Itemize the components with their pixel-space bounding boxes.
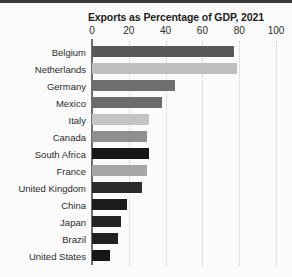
- bar-row[interactable]: [92, 247, 276, 264]
- x-tick-label-40: 40: [160, 25, 171, 36]
- bar-chart: Exports as Percentage of GDP, 2021 02040…: [0, 3, 292, 277]
- y-tick-slot: Brazil: [0, 230, 86, 247]
- y-tick-slot: South Africa: [0, 145, 86, 162]
- bar[interactable]: [92, 216, 121, 227]
- bar-row[interactable]: [92, 145, 276, 162]
- bar-row[interactable]: [92, 179, 276, 196]
- bar[interactable]: [92, 80, 175, 91]
- bar[interactable]: [92, 199, 127, 210]
- chart-title: Exports as Percentage of GDP, 2021: [66, 11, 286, 23]
- y-tick-slot: Belgium: [0, 43, 86, 60]
- y-tick-label-south-africa: South Africa: [0, 149, 86, 160]
- y-tick-slot: Netherlands: [0, 60, 86, 77]
- y-tick-slot: United States: [0, 247, 86, 264]
- bar[interactable]: [92, 165, 147, 176]
- x-tick-label-20: 20: [123, 25, 134, 36]
- y-tick-label-germany: Germany: [0, 81, 86, 92]
- y-tick-label-belgium: Belgium: [0, 47, 86, 58]
- bar-row[interactable]: [92, 128, 276, 145]
- bar[interactable]: [92, 250, 110, 261]
- bar-row[interactable]: [92, 213, 276, 230]
- bar-row[interactable]: [92, 94, 276, 111]
- y-tick-slot: France: [0, 162, 86, 179]
- y-tick-slot: United Kingdom: [0, 179, 86, 196]
- y-tick-slot: Canada: [0, 128, 86, 145]
- bar-row[interactable]: [92, 196, 276, 213]
- bar-row[interactable]: [92, 162, 276, 179]
- y-tick-label-france: France: [0, 166, 86, 177]
- gridline-100: [276, 41, 277, 265]
- y-tick-label-netherlands: Netherlands: [0, 64, 86, 75]
- y-tick-label-japan: Japan: [0, 217, 86, 228]
- y-tick-slot: China: [0, 196, 86, 213]
- x-tick-label-60: 60: [197, 25, 208, 36]
- y-tick-label-brazil: Brazil: [0, 234, 86, 245]
- y-tick-label-mexico: Mexico: [0, 98, 86, 109]
- y-tick-label-united-kingdom: United Kingdom: [0, 183, 86, 194]
- y-axis-category-labels: BelgiumNetherlandsGermanyMexicoItalyCana…: [0, 41, 86, 265]
- plot-area: [92, 41, 276, 265]
- y-tick-slot: Italy: [0, 111, 86, 128]
- y-tick-slot: Mexico: [0, 94, 86, 111]
- y-tick-slot: Japan: [0, 213, 86, 230]
- bar-row[interactable]: [92, 77, 276, 94]
- y-tick-label-united-states: United States: [0, 251, 86, 262]
- bar-row[interactable]: [92, 111, 276, 128]
- bar[interactable]: [92, 131, 147, 142]
- bar-row[interactable]: [92, 60, 276, 77]
- bar[interactable]: [92, 182, 142, 193]
- y-tick-label-china: China: [0, 200, 86, 211]
- x-tick-label-80: 80: [234, 25, 245, 36]
- bar-row[interactable]: [92, 230, 276, 247]
- bar-row[interactable]: [92, 43, 276, 60]
- y-tick-label-canada: Canada: [0, 132, 86, 143]
- x-tick-label-0: 0: [89, 25, 95, 36]
- y-tick-slot: Germany: [0, 77, 86, 94]
- bar[interactable]: [92, 114, 149, 125]
- bar[interactable]: [92, 148, 149, 159]
- bar[interactable]: [92, 97, 162, 108]
- x-axis-tick-labels: 020406080100: [0, 25, 292, 38]
- x-tick-label-100: 100: [268, 25, 285, 36]
- bar[interactable]: [92, 233, 118, 244]
- y-tick-label-italy: Italy: [0, 115, 86, 126]
- bar[interactable]: [92, 46, 234, 57]
- bar[interactable]: [92, 63, 237, 74]
